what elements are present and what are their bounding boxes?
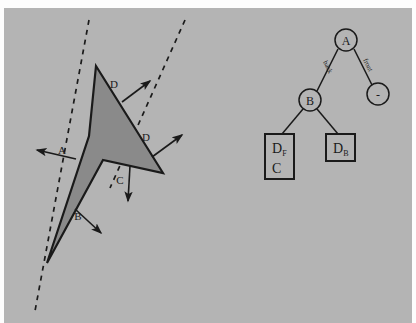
tree-edge-b-df	[282, 109, 303, 134]
tree-leaf-db-subscript: B	[343, 149, 348, 158]
figure-canvas: A B C D D back front	[4, 8, 412, 323]
tree-leaf-df-c: DF C	[265, 134, 294, 179]
figure-panel: A B C D D back front	[4, 8, 412, 323]
tree-edge-b-db	[317, 109, 338, 134]
figure-page: A B C D D back front	[0, 0, 416, 323]
tree-nodes-group: A B -	[299, 29, 389, 111]
tree-leaf-df-c-subscript: F	[282, 149, 287, 158]
normal-arrow-c	[128, 166, 130, 201]
tree-node-a: A	[335, 29, 357, 51]
splitting-lines-group	[35, 20, 185, 311]
normal-arrow-b-label: B	[74, 210, 81, 222]
normal-arrow-a	[37, 150, 76, 159]
tree-leaf-db-letter: D	[333, 141, 343, 156]
normal-arrow-d2-label: D	[142, 131, 150, 143]
normal-arrow-d2	[152, 135, 182, 157]
tree-node-empty: -	[367, 83, 389, 105]
tree-leaf-df-c-line2: C	[272, 161, 281, 176]
normal-arrow-c-label: C	[116, 174, 123, 186]
tree-edge-label-back: back	[321, 59, 334, 75]
tree-leaves-group: DF C DB	[265, 134, 355, 179]
normal-arrow-a-label: A	[58, 144, 66, 156]
normal-arrow-d1	[122, 81, 150, 102]
tree-leaf-db: DB	[326, 134, 355, 161]
tree-edge-label-front: front	[361, 57, 374, 73]
tree-node-b-label: B	[306, 94, 314, 108]
tree-node-empty-label: -	[376, 88, 380, 102]
tree-leaf-df-c-letter: D	[272, 141, 282, 156]
concave-dart-polygon	[47, 66, 163, 263]
normal-arrow-d1-label: D	[110, 78, 118, 90]
tree-node-a-label: A	[342, 34, 351, 48]
tree-node-b: B	[299, 89, 321, 111]
